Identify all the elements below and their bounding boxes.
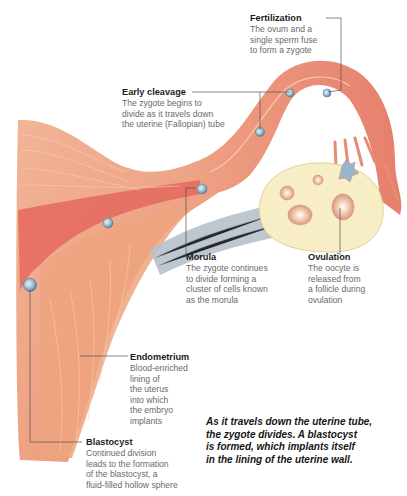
endometrium-desc: Blood-enriched lining of the uterus into…: [130, 363, 210, 427]
fertilization-desc: The ovum and a single sperm fuse to form…: [250, 24, 342, 56]
morula-cell: [197, 184, 207, 194]
zygote-fertilization: [323, 89, 331, 97]
endometrium-title: Endometrium: [130, 352, 210, 363]
blastocyst-title: Blastocyst: [86, 437, 196, 448]
blastocyst-cell: [24, 279, 37, 292]
morula-desc: The zygote continues to divide forming a…: [186, 263, 286, 305]
early-cleavage-title: Early cleavage: [122, 87, 252, 98]
early-cleavage-desc: The zygote begins to divide as it travel…: [122, 98, 252, 130]
cell-in-uterus: [103, 218, 113, 228]
figure-caption: As it travels down the uterine tube, the…: [206, 416, 406, 466]
ovulation-title: Ovulation: [308, 252, 398, 263]
label-ovulation: Ovulation The oocyte is released from a …: [308, 252, 398, 305]
morula-title: Morula: [186, 252, 286, 263]
label-blastocyst: Blastocyst Continued division leads to t…: [86, 437, 196, 490]
label-fertilization: Fertilization The ovum and a single sper…: [250, 13, 342, 56]
label-morula: Morula The zygote continues to divide fo…: [186, 252, 286, 305]
blastocyst-desc: Continued division leads to the formatio…: [86, 448, 196, 490]
label-early-cleavage: Early cleavage The zygote begins to divi…: [122, 87, 252, 130]
ovulation-desc: The oocyte is released from a follicle d…: [308, 263, 398, 305]
early-cleavage-cell-1: [286, 89, 294, 97]
ovary: [259, 160, 383, 252]
fertilization-title: Fertilization: [250, 13, 342, 24]
label-endometrium: Endometrium Blood-enriched lining of the…: [130, 352, 210, 427]
